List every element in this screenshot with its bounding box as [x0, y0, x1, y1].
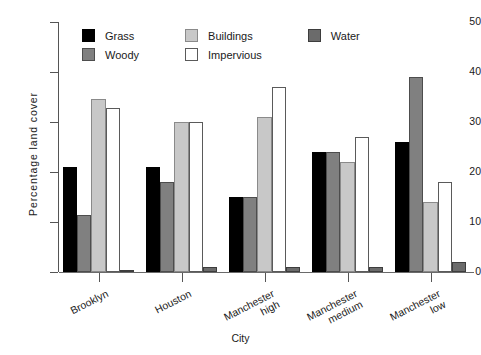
bar-grass-manchester-low	[395, 142, 409, 272]
bar-group	[63, 22, 134, 272]
bar-impervious-manchester-low	[438, 182, 452, 272]
bar-buildings-brooklyn	[91, 99, 105, 272]
bar-woody-houston	[160, 182, 174, 272]
bar-impervious-houston	[189, 122, 203, 272]
x-tick	[348, 273, 349, 282]
bar-buildings-manchester-high	[257, 117, 271, 272]
bar-chart: Percentage land cover 01020304050 GrassB…	[0, 0, 481, 355]
x-axis-line	[59, 272, 474, 273]
bar-buildings-houston	[174, 122, 188, 272]
bar-impervious-manchester-medium	[355, 137, 369, 272]
bar-woody-manchester-low	[409, 77, 423, 272]
bar-woody-brooklyn	[77, 215, 91, 272]
bar-grass-houston	[146, 167, 160, 272]
bar-group	[312, 22, 383, 272]
x-axis-title: City	[0, 332, 481, 344]
bar-grass-manchester-medium	[312, 152, 326, 272]
x-tick	[265, 273, 266, 282]
y-tick	[50, 172, 58, 173]
y-tick	[50, 222, 58, 223]
y-tick	[50, 72, 58, 73]
y-axis-title: Percentage land cover	[27, 54, 39, 254]
plot-area	[59, 22, 474, 272]
x-tick	[99, 273, 100, 282]
bar-water-manchester-low	[452, 262, 466, 272]
bar-group	[229, 22, 300, 272]
x-tick	[182, 273, 183, 282]
bar-group	[146, 22, 217, 272]
bar-buildings-manchester-medium	[340, 162, 354, 272]
bar-impervious-manchester-high	[272, 87, 286, 272]
y-tick	[50, 272, 58, 273]
bar-woody-manchester-high	[243, 197, 257, 272]
x-tick	[431, 273, 432, 282]
bar-group	[395, 22, 466, 272]
bar-grass-brooklyn	[63, 167, 77, 272]
bar-woody-manchester-medium	[326, 152, 340, 272]
bar-grass-manchester-high	[229, 197, 243, 272]
y-tick	[50, 122, 58, 123]
bar-buildings-manchester-low	[423, 202, 437, 272]
bar-impervious-brooklyn	[106, 108, 120, 272]
y-tick	[50, 22, 58, 23]
